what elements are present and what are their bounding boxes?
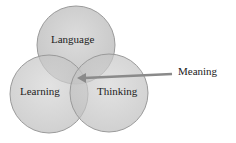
venn-diagram: Language Learning Thinking Meaning (0, 0, 236, 143)
label-thinking: Thinking (97, 85, 138, 97)
label-meaning: Meaning (178, 65, 218, 77)
label-learning: Learning (20, 85, 60, 97)
label-language: Language (51, 33, 94, 45)
